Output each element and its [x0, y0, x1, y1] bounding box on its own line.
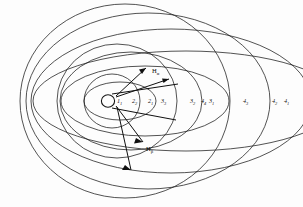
orbit-label-3-1: 31: [208, 97, 214, 106]
orbit-label-4-3: 43: [243, 97, 249, 106]
orbit-labels: 11 22 21 33 32 44 31 43: [117, 97, 289, 106]
orbit-label-4-2: 42: [272, 97, 278, 106]
orbit-label-2-2: 22: [132, 97, 138, 106]
orbit-label-4-1: 41: [284, 97, 289, 106]
orbit-label-2-1: 21: [148, 97, 153, 106]
sommerfeld-orbit-figure: 11 22 21 33 32 44 31 43: [0, 0, 303, 207]
transition-labels: Hα Hβ: [146, 67, 160, 154]
transition-label-h-beta: Hβ: [146, 145, 154, 154]
transition-label-h-alpha: Hα: [152, 67, 160, 76]
orbit-label-1-1: 11: [117, 97, 122, 106]
orbit-label-4-4: 44: [201, 97, 207, 106]
orbit-label-layer: 11 22 21 33 32 44 31 43: [0, 0, 303, 207]
orbit-label-3-3: 33: [160, 97, 167, 106]
orbit-label-3-2: 32: [189, 97, 196, 106]
